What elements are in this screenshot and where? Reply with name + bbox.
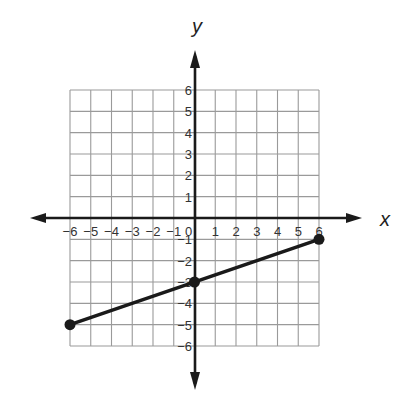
y-tick-label: 6	[185, 83, 192, 98]
x-tick-label: 3	[253, 224, 260, 239]
y-tick-label: 1	[185, 190, 192, 205]
y-tick-label: 3	[185, 147, 192, 162]
axes	[30, 50, 362, 390]
x-tick-label: 2	[232, 224, 239, 239]
y-axis-down-arrow-icon	[190, 372, 200, 390]
y-tick-label: 2	[185, 168, 192, 183]
data-point	[65, 319, 76, 330]
y-tick-label: −2	[177, 254, 192, 269]
y-tick-label: 5	[185, 104, 192, 119]
x-tick-label: −5	[83, 224, 98, 239]
x-tick-label: −6	[63, 224, 78, 239]
y-tick-label: 4	[185, 126, 192, 141]
y-axis-up-arrow-icon	[190, 50, 200, 68]
y-tick-label: −5	[177, 318, 192, 333]
data-point	[314, 234, 325, 245]
y-tick-label: −1	[177, 232, 192, 247]
x-axis-right-arrow-icon	[346, 213, 362, 223]
y-axis-label: y	[190, 15, 203, 37]
data-point	[189, 277, 200, 288]
x-axis-label: x	[379, 208, 391, 230]
coordinate-plane: x y −6−5−4−3−2−10123456−6−5−4−3−2−112345…	[0, 0, 408, 406]
x-tick-label: 1	[212, 224, 219, 239]
y-tick-label: −6	[177, 339, 192, 354]
x-tick-label: 5	[295, 224, 302, 239]
x-tick-label: −4	[104, 224, 119, 239]
x-tick-label: −2	[146, 224, 161, 239]
x-axis-left-arrow-icon	[30, 213, 46, 223]
x-tick-label: −3	[125, 224, 140, 239]
y-tick-label: −4	[177, 296, 192, 311]
x-tick-label: 4	[274, 224, 281, 239]
